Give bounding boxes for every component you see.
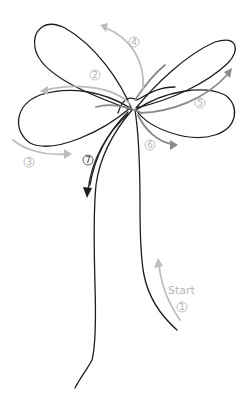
svg-text:3: 3 — [26, 157, 32, 167]
svg-text:4: 4 — [131, 37, 137, 47]
step-label-4: 4 — [129, 37, 139, 47]
step-label-7: 7 — [83, 155, 93, 165]
strand-left — [75, 110, 132, 388]
step-label-1: 1 — [177, 302, 187, 312]
arrow-head-step-6 — [170, 140, 178, 150]
step-label-2: 2 — [90, 70, 100, 80]
svg-text:7: 7 — [85, 155, 91, 165]
knot-diagram: 1 2 3 4 5 6 7 Start — [0, 0, 242, 410]
cord — [19, 24, 236, 388]
loop-upper-right — [136, 40, 235, 108]
step-label-5: 5 — [195, 98, 205, 108]
step-label-3: 3 — [24, 157, 34, 167]
svg-text:6: 6 — [147, 140, 153, 150]
arrow-step-4 — [106, 28, 143, 88]
step-labels: 1 2 3 4 5 6 7 Start — [24, 37, 205, 312]
arrow-step-5 — [140, 74, 228, 113]
svg-text:1: 1 — [179, 302, 185, 312]
arrow-step-3 — [13, 140, 66, 154]
loop-right — [136, 90, 235, 137]
arrow-head-step-7 — [83, 187, 92, 198]
step-label-6: 6 — [145, 140, 155, 150]
step-arrows — [13, 23, 232, 320]
arrow-head-step-3 — [64, 149, 72, 159]
svg-text:2: 2 — [92, 70, 98, 80]
arrow-step-6 — [138, 115, 172, 144]
arrow-step-7 — [88, 114, 128, 190]
arrow-head-step-4 — [100, 23, 108, 32]
cord-crossing-3 — [135, 65, 165, 100]
loop-left — [19, 90, 130, 146]
loop-upper-left — [35, 24, 132, 110]
arrow-head-step-1 — [154, 258, 163, 268]
start-label: Start — [168, 284, 196, 297]
svg-text:5: 5 — [197, 98, 203, 108]
